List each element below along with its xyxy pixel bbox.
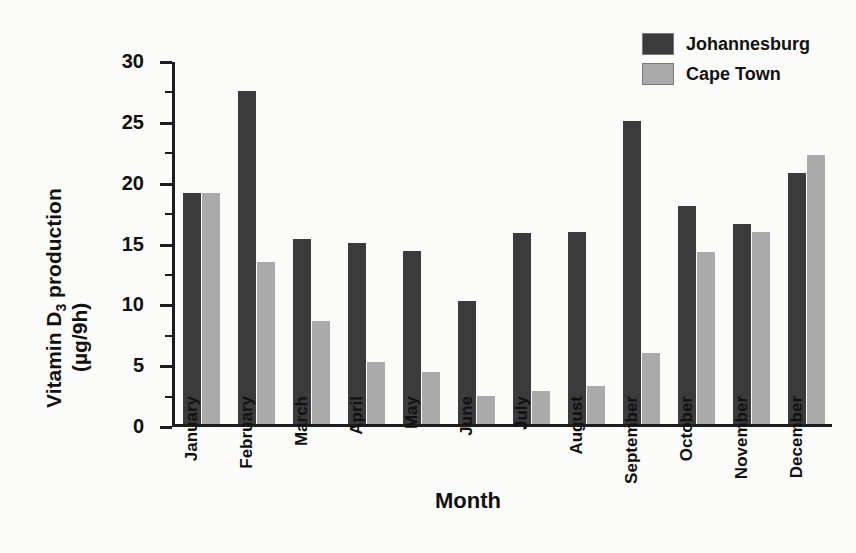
y-axis-units: (µg/9h): [68, 303, 92, 372]
x-tick-slot-august: August: [557, 392, 597, 502]
y-axis-title-line1: Vitamin D3 production: [42, 188, 69, 408]
y-tick-15: 15: [160, 244, 172, 247]
bar-johannesburg-february: [238, 91, 256, 424]
x-axis-title: Month: [0, 488, 856, 514]
plot-area: 051015202530: [172, 40, 832, 427]
x-tick-label-july: July: [512, 396, 532, 430]
y-minor-tick: [165, 396, 172, 398]
x-tick-label-december: December: [787, 396, 807, 478]
y-tick-20: 20: [160, 183, 172, 186]
bar-johannesburg-december: [788, 173, 806, 424]
x-tick-label-april: April: [347, 396, 367, 435]
x-axis-title-text: Month: [435, 488, 501, 513]
legend-label-cape-town: Cape Town: [686, 64, 781, 85]
y-axis-title-subscript: 3: [53, 304, 69, 312]
chart-figure: Vitamin D3 production (µg/9h) 0510152025…: [0, 0, 856, 553]
y-tick-label-15: 15: [122, 233, 144, 253]
y-tick-10: 10: [160, 304, 172, 307]
y-axis-title-tail: production: [42, 188, 65, 298]
y-minor-tick: [165, 91, 172, 93]
y-axis-line: [172, 62, 175, 427]
legend-label-johannesburg: Johannesburg: [686, 34, 810, 55]
bar-cape-town-january: [202, 193, 220, 424]
x-tick-label-march: March: [292, 396, 312, 446]
x-tick-slot-february: February: [227, 392, 267, 502]
x-tick-label-october: October: [677, 396, 697, 461]
x-tick-slot-april: April: [337, 392, 377, 502]
x-tick-slot-march: March: [282, 392, 322, 502]
x-tick-slot-december: December: [777, 392, 817, 502]
y-tick-label-0: 0: [133, 416, 144, 436]
legend-item-johannesburg: Johannesburg: [642, 33, 852, 55]
y-tick-0: 0: [160, 426, 172, 429]
legend-swatch-johannesburg: [642, 33, 674, 55]
x-tick-label-november: November: [732, 396, 752, 479]
y-axis-title-main: Vitamin D: [42, 312, 65, 408]
y-tick-label-10: 10: [122, 294, 144, 314]
y-tick-label-5: 5: [133, 355, 144, 375]
x-tick-slot-may: May: [392, 392, 432, 502]
y-minor-tick: [165, 335, 172, 337]
legend-swatch-cape-town: [642, 63, 674, 85]
x-tick-slot-september: September: [612, 392, 652, 502]
x-tick-slot-june: June: [447, 392, 487, 502]
x-tick-label-august: August: [567, 396, 587, 455]
bar-johannesburg-september: [623, 121, 641, 424]
x-tick-label-may: May: [402, 396, 422, 429]
y-tick-label-20: 20: [122, 172, 144, 192]
legend-item-cape-town: Cape Town: [642, 63, 852, 85]
x-tick-slot-january: January: [172, 392, 212, 502]
y-tick-label-30: 30: [122, 51, 144, 71]
y-tick-25: 25: [160, 122, 172, 125]
x-tick-slot-july: July: [502, 392, 542, 502]
x-tick-slot-october: October: [667, 392, 707, 502]
bar-johannesburg-january: [183, 193, 201, 424]
x-tick-label-february: February: [237, 396, 257, 469]
x-tick-label-september: September: [622, 396, 642, 484]
bar-cape-town-december: [807, 155, 825, 424]
y-minor-tick: [165, 213, 172, 215]
y-tick-5: 5: [160, 365, 172, 368]
y-axis-title: Vitamin D3 production (µg/9h): [6, 0, 84, 440]
y-tick-label-25: 25: [122, 111, 144, 131]
chart-legend: JohannesburgCape Town: [642, 33, 852, 93]
x-tick-slot-november: November: [722, 392, 762, 502]
y-minor-tick: [165, 152, 172, 154]
x-tick-label-june: June: [457, 396, 477, 436]
y-minor-tick: [165, 274, 172, 276]
y-tick-30: 30: [160, 61, 172, 64]
x-tick-label-january: January: [182, 396, 202, 461]
